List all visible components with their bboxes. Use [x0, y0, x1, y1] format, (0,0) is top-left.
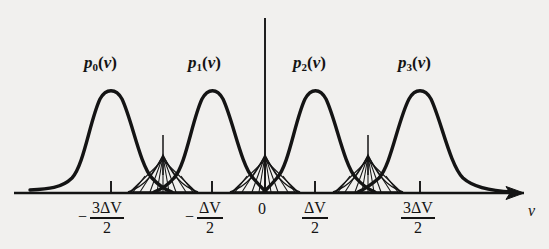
tick-3-numerator: ΔV	[304, 199, 326, 216]
tick-4-numerator: 3ΔV	[403, 199, 433, 216]
curve-label-p1: p1(v)	[188, 54, 221, 73]
tick-1-sign: −	[185, 209, 194, 225]
curve-p0	[30, 91, 172, 192]
tick-4-denominator: 2	[414, 219, 422, 236]
tick-label-minus-3dv-2: − 3ΔV 2	[78, 200, 124, 236]
curve-label-p0-base: p	[84, 53, 93, 72]
curve-label-p0: p0(v)	[84, 54, 117, 73]
curve-label-p3-base: p	[398, 53, 407, 72]
tick-label-minus-dv-2: − ΔV 2	[185, 200, 223, 236]
curve-p2	[264, 91, 375, 192]
tick-1-numerator: ΔV	[199, 199, 221, 216]
tick-0-sign: −	[78, 209, 87, 225]
distribution-curves	[30, 91, 512, 192]
curve-p3	[358, 91, 512, 192]
tick-label-zero: 0	[258, 201, 266, 217]
curve-label-p3: p3(v)	[398, 54, 431, 73]
tick-0-denominator: 2	[103, 219, 111, 236]
tick-label-dv-2: ΔV 2	[302, 200, 328, 236]
curve-label-p2: p2(v)	[293, 54, 326, 73]
tick-1-denominator: 2	[206, 219, 214, 236]
curve-label-p1-base: p	[188, 53, 197, 72]
curve-label-p2-base: p	[293, 53, 302, 72]
axis-label-v: v	[528, 203, 535, 219]
tick-3-denominator: 2	[311, 219, 319, 236]
figure-canvas: p0(v) p1(v) p2(v) p3(v) − 3ΔV 2 − ΔV 2 0…	[0, 0, 549, 249]
tick-label-3dv-2: 3ΔV 2	[401, 200, 435, 236]
tick-0-numerator: 3ΔV	[92, 199, 122, 216]
